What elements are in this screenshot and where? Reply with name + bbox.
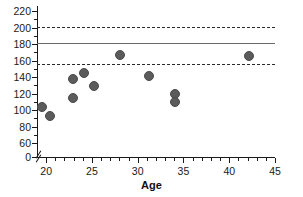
scatter-chart: 06080100120140160180200220 202530354045 … — [0, 0, 303, 197]
x-tick-mark — [229, 158, 230, 163]
y-tick-mark-minor — [34, 36, 37, 37]
y-tick-label: 180 — [1, 39, 31, 49]
x-tick-mark-minor — [64, 158, 65, 161]
x-tick-mark — [92, 158, 93, 163]
x-tick-label: 25 — [77, 165, 107, 177]
y-tick-mark-minor — [34, 118, 37, 119]
reference-line-lower-limit — [37, 64, 275, 65]
y-tick-mark — [32, 61, 37, 62]
y-tick-mark-minor — [34, 135, 37, 136]
data-point — [144, 71, 154, 81]
data-point — [244, 51, 254, 61]
x-tick-label: 20 — [31, 165, 61, 177]
y-tick-mark — [32, 127, 37, 128]
data-point — [45, 111, 55, 121]
data-point — [37, 102, 47, 112]
y-tick-mark — [32, 11, 37, 12]
y-tick-mark — [32, 110, 37, 111]
data-point — [79, 68, 89, 78]
y-tick-label: 100 — [1, 105, 31, 115]
x-tick-mark-minor — [55, 158, 56, 161]
x-tick-mark — [183, 158, 184, 163]
y-tick-label: 0 — [1, 152, 31, 162]
data-point — [68, 74, 78, 84]
data-point — [89, 81, 99, 91]
y-tick-label: 220 — [1, 6, 31, 16]
data-point — [68, 93, 78, 103]
y-tick-label: 80 — [1, 122, 31, 132]
y-tick-mark-minor — [34, 52, 37, 53]
x-tick-mark-minor — [266, 158, 267, 161]
y-tick-mark-minor — [34, 85, 37, 86]
x-tick-mark-minor — [220, 158, 221, 161]
x-tick-mark-minor — [119, 158, 120, 161]
y-axis-break-icon — [33, 149, 45, 163]
y-tick-mark-minor — [34, 102, 37, 103]
x-tick-mark-minor — [83, 158, 84, 161]
x-tick-mark-minor — [211, 158, 212, 161]
x-tick-mark — [46, 158, 47, 163]
x-tick-label: 45 — [260, 165, 290, 177]
x-tick-mark-minor — [257, 158, 258, 161]
y-tick-mark — [32, 94, 37, 95]
x-tick-mark-minor — [248, 158, 249, 161]
y-tick-label: 120 — [1, 89, 31, 99]
x-tick-label: 40 — [214, 165, 244, 177]
x-tick-mark-minor — [238, 158, 239, 161]
data-point — [170, 97, 180, 107]
data-point — [115, 50, 125, 60]
x-axis-title: Age — [0, 179, 303, 191]
x-tick-label: 30 — [123, 165, 153, 177]
x-tick-mark-minor — [174, 158, 175, 161]
x-tick-mark-minor — [202, 158, 203, 161]
reference-line-upper-limit — [37, 27, 275, 28]
y-tick-label: 160 — [1, 56, 31, 66]
x-tick-mark-minor — [165, 158, 166, 161]
y-tick-mark — [32, 157, 37, 158]
x-tick-mark-minor — [74, 158, 75, 161]
y-tick-label: 60 — [1, 138, 31, 148]
y-tick-label: 200 — [1, 23, 31, 33]
x-tick-mark-minor — [110, 158, 111, 161]
y-tick-label: 140 — [1, 72, 31, 82]
x-tick-mark-minor — [156, 158, 157, 161]
y-tick-mark — [32, 143, 37, 144]
x-tick-mark — [138, 158, 139, 163]
y-tick-mark — [32, 77, 37, 78]
x-tick-mark-minor — [129, 158, 130, 161]
x-tick-mark-minor — [147, 158, 148, 161]
y-axis-line — [37, 6, 38, 157]
x-tick-mark — [275, 158, 276, 163]
x-tick-mark-minor — [193, 158, 194, 161]
reference-line-mean — [37, 43, 275, 44]
x-tick-label: 35 — [168, 165, 198, 177]
x-tick-mark-minor — [101, 158, 102, 161]
y-tick-mark-minor — [34, 69, 37, 70]
y-tick-label-group: 06080100120140160180200220 — [0, 0, 31, 197]
y-tick-mark-minor — [34, 19, 37, 20]
